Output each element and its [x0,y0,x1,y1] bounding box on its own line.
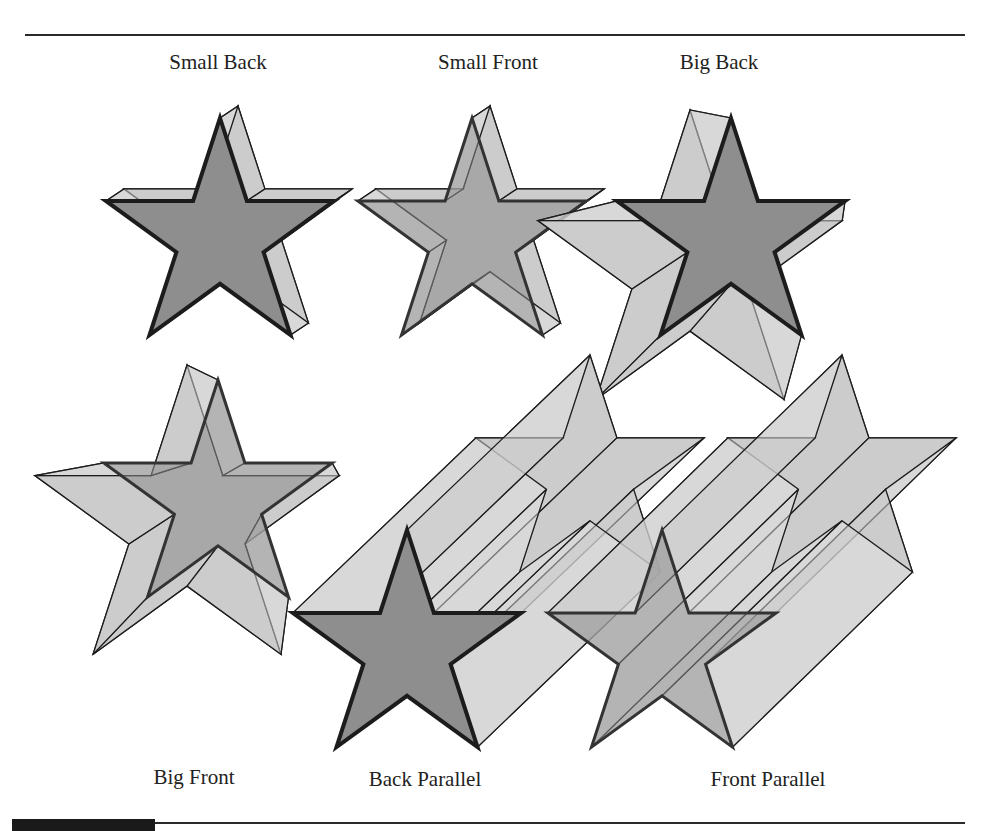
label-big-front: Big Front [153,765,234,790]
star-big-back [538,110,845,399]
label-big-back: Big Back [680,50,759,75]
label-front-parallel: Front Parallel [711,767,826,792]
bottom-rule-tab [12,819,155,831]
bottom-rule [155,822,965,824]
label-small-back: Small Back [169,50,266,75]
label-back-parallel: Back Parallel [369,767,482,792]
extruded-stars-diagram [0,0,996,831]
label-small-front: Small Front [438,50,538,75]
star-small-back [106,106,352,335]
